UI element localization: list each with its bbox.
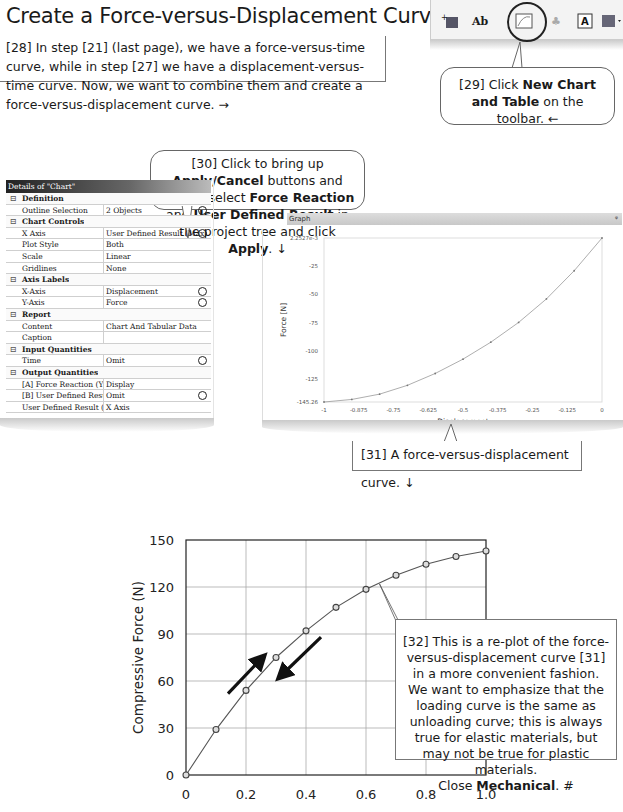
row-indent: [6, 321, 20, 332]
details-key: Chart Controls: [20, 216, 84, 227]
collapse-icon[interactable]: ⊟: [6, 216, 20, 227]
details-key: Y-Axis: [20, 297, 104, 308]
highlight-circle-icon: [198, 356, 207, 365]
details-value[interactable]: Force: [104, 297, 211, 308]
row-indent: [6, 205, 20, 216]
details-category[interactable]: ⊟Chart Controls: [6, 216, 211, 228]
svg-text:-0.875: -0.875: [350, 407, 368, 413]
svg-text:0.6: 0.6: [356, 787, 377, 802]
collapse-icon[interactable]: ⊟: [6, 309, 20, 320]
details-row[interactable]: [B] User Defined Result (Min)Omit: [6, 390, 211, 402]
details-category[interactable]: ⊟Definition: [6, 193, 211, 205]
details-row[interactable]: Caption: [6, 332, 211, 344]
svg-text:Compressive Force (N): Compressive Force (N): [130, 581, 146, 734]
text-icon[interactable]: A: [576, 12, 594, 30]
highlight-circle-icon: [198, 287, 207, 296]
svg-text:0: 0: [166, 768, 174, 783]
highlight-circle-icon: [198, 298, 207, 307]
details-value[interactable]: None: [104, 263, 211, 274]
details-category[interactable]: ⊟Input Quantities: [6, 344, 211, 356]
details-header: Details of "Chart": [6, 180, 211, 193]
details-row[interactable]: ContentChart And Tabular Data: [6, 321, 211, 333]
highlight-circle-icon: [198, 391, 207, 400]
details-row[interactable]: User Defined Result (Max)X Axis: [6, 402, 211, 414]
image-dropdown-icon[interactable]: [601, 12, 623, 30]
svg-text:120: 120: [149, 580, 174, 595]
details-category[interactable]: ⊟Axis Labels: [6, 274, 211, 286]
details-value[interactable]: Omit: [104, 390, 211, 401]
pin-icon[interactable]: ᵠ: [615, 213, 618, 225]
row-indent: [6, 228, 20, 239]
details-value[interactable]: User Defined Result (Max): [104, 228, 211, 239]
collapse-icon[interactable]: ⊟: [6, 344, 20, 355]
svg-text:Force [N]: Force [N]: [279, 303, 288, 337]
step-31-caption: [31] A force-versus-displacement curve. …: [352, 441, 582, 471]
details-value[interactable]: Linear: [104, 251, 211, 262]
details-row[interactable]: GridlinesNone: [6, 263, 211, 275]
collapse-icon[interactable]: ⊟: [6, 274, 20, 285]
details-row[interactable]: Plot StyleBoth: [6, 239, 211, 251]
callout-pointer-29: [500, 40, 530, 70]
details-value[interactable]: [104, 332, 211, 343]
svg-text:+: +: [441, 13, 448, 22]
svg-text:0.2: 0.2: [236, 787, 257, 802]
details-category[interactable]: ⊟Output Quantities: [6, 367, 211, 379]
svg-text:-75: -75: [309, 320, 318, 326]
new-annotation-icon[interactable]: Ab: [471, 12, 489, 30]
new-section-plane-icon[interactable]: +: [441, 12, 459, 30]
details-category[interactable]: ⊟Report: [6, 309, 211, 321]
svg-text:0: 0: [600, 407, 604, 413]
details-value[interactable]: 2 Objects: [104, 205, 211, 216]
graph-panel-title: Graph ᵠ: [287, 213, 622, 225]
row-indent: [6, 379, 20, 390]
details-row[interactable]: ScaleLinear: [6, 251, 211, 263]
svg-text:0.8: 0.8: [416, 787, 437, 802]
details-value[interactable]: Both: [104, 239, 211, 250]
details-value[interactable]: Displacement: [104, 286, 211, 297]
svg-text:-100: -100: [306, 348, 319, 354]
row-indent: [6, 402, 20, 413]
details-key: X-Axis: [20, 286, 104, 297]
collapse-icon[interactable]: ⊟: [6, 193, 20, 204]
details-row[interactable]: TimeOmit: [6, 355, 211, 367]
svg-text:-0.75: -0.75: [386, 407, 401, 413]
details-row[interactable]: Y-AxisForce: [6, 297, 211, 309]
highlight-circle-icon: [198, 229, 207, 238]
details-key: [A] Force Reaction (Y): [20, 379, 104, 390]
details-key: Content: [20, 321, 104, 332]
details-key: [B] User Defined Result (Min): [20, 390, 104, 401]
comment-icon[interactable]: ♣: [547, 12, 565, 30]
details-key: Output Quantities: [20, 367, 98, 378]
svg-text:-0.375: -0.375: [489, 407, 507, 413]
svg-text:150: 150: [149, 535, 174, 548]
callout-pointer-31: [444, 423, 464, 443]
collapse-icon[interactable]: ⊟: [6, 367, 20, 378]
svg-text:30: 30: [157, 721, 174, 736]
svg-text:-0.125: -0.125: [558, 407, 576, 413]
svg-text:0: 0: [182, 787, 190, 802]
svg-text:60: 60: [157, 674, 174, 689]
row-indent: [6, 390, 20, 401]
details-key: User Defined Result (Max): [20, 402, 104, 413]
details-key: Input Quantities: [20, 344, 92, 355]
details-panel-shadow: [0, 418, 214, 432]
details-value[interactable]: Chart And Tabular Data: [104, 321, 211, 332]
details-value[interactable]: X Axis: [104, 402, 211, 413]
svg-text:-25: -25: [309, 263, 318, 269]
row-indent: [6, 286, 20, 297]
details-row[interactable]: X AxisUser Defined Result (Max): [6, 228, 211, 240]
details-key: Plot Style: [20, 239, 104, 250]
details-value[interactable]: Display: [104, 379, 211, 390]
step-32-callout: [32] This is a re-plot of the force-vers…: [395, 619, 617, 760]
details-key: Gridlines: [20, 263, 104, 274]
svg-text:-125: -125: [306, 376, 319, 382]
svg-text:-1: -1: [321, 407, 326, 413]
details-key: Outline Selection: [20, 205, 104, 216]
details-row[interactable]: Outline Selection2 Objects: [6, 205, 211, 217]
details-key: X Axis: [20, 228, 104, 239]
details-row[interactable]: [A] Force Reaction (Y)Display: [6, 379, 211, 391]
details-value[interactable]: Omit: [104, 355, 211, 366]
page-title: Create a Force-versus-Displacement Curve: [6, 4, 444, 28]
details-row[interactable]: X-AxisDisplacement: [6, 286, 211, 298]
details-key: Definition: [20, 193, 64, 204]
